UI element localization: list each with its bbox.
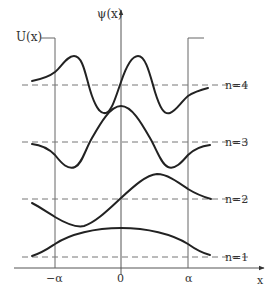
- tick-label-alpha: α: [185, 272, 193, 285]
- potential-label: U(x): [16, 30, 42, 44]
- wavefunction-n4: [32, 56, 208, 113]
- level-label-n1: n=1: [225, 251, 248, 264]
- tick-label-zero: 0: [117, 272, 124, 285]
- wavefunction-label: ψ(x): [97, 7, 123, 21]
- level-label-n4: n=4: [225, 79, 248, 92]
- tick-label-neg-alpha: −α: [46, 272, 63, 285]
- x-axis-label: x: [257, 274, 264, 287]
- square-well-diagram: U(x) ψ(x) n=4 n=3 n=2 n=1 −α 0 α x: [0, 0, 274, 297]
- level-label-n2: n=2: [225, 193, 248, 206]
- level-label-n3: n=3: [225, 136, 248, 149]
